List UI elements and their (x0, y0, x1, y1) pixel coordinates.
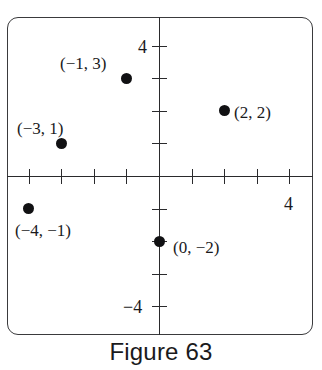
y-axis-tick--3 (152, 274, 167, 275)
plot-area: 4 −4 4 (−1, 3) (2, 2) (−3, 1) (−4, −1) (… (7, 17, 313, 335)
y-axis-label-4: 4 (138, 38, 147, 56)
figure-63-graph: 4 −4 4 (−1, 3) (2, 2) (−3, 1) (−4, −1) (… (0, 0, 322, 370)
x-axis-tick-2 (224, 169, 225, 184)
y-axis-label--4: −4 (123, 298, 142, 316)
data-point-0--2 (154, 236, 165, 247)
y-axis-tick-4 (152, 46, 167, 47)
y-axis-line (159, 17, 160, 335)
data-point--1-3 (121, 73, 132, 84)
y-axis-tick-1 (152, 143, 167, 144)
x-axis-tick--3 (61, 169, 62, 184)
data-point-label-2-2: (2, 2) (234, 104, 271, 121)
data-point--3-1 (56, 138, 67, 149)
x-axis-tick--4 (29, 169, 30, 184)
y-axis-tick--4 (152, 306, 167, 307)
data-point-label--4--1: (−4, −1) (15, 222, 71, 239)
x-axis-tick--2 (94, 169, 95, 184)
x-axis-label-4: 4 (284, 195, 293, 213)
data-point--4--1 (23, 203, 34, 214)
data-point-2-2 (219, 105, 230, 116)
figure-caption: Figure 63 (0, 338, 322, 366)
y-axis-tick--1 (152, 209, 167, 210)
data-point-label-0--2: (0, −2) (173, 239, 219, 256)
x-axis-tick-3 (257, 169, 258, 184)
data-point-label--3-1: (−3, 1) (17, 120, 63, 137)
x-axis-line (7, 176, 313, 177)
x-axis-tick-1 (192, 169, 193, 184)
x-axis-tick--1 (126, 169, 127, 184)
data-point-label--1-3: (−1, 3) (60, 55, 106, 72)
x-axis-tick-4 (289, 169, 290, 184)
y-axis-tick-2 (152, 111, 167, 112)
y-axis-tick-3 (152, 78, 167, 79)
